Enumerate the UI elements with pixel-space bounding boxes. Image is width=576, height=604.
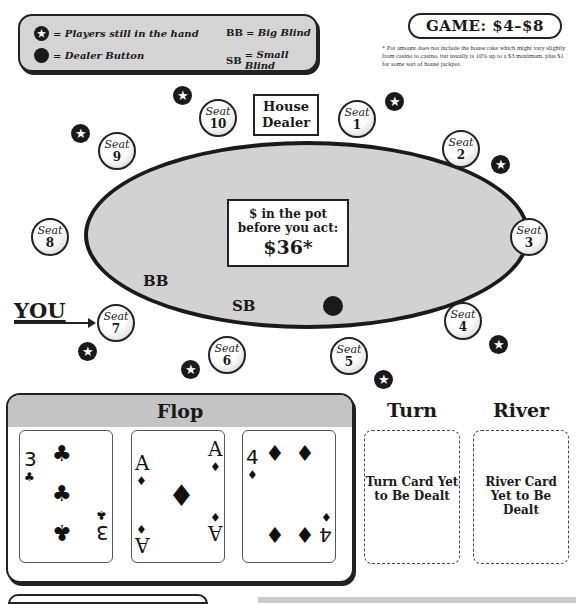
turn-title: Turn	[364, 399, 460, 421]
card-rank: A	[208, 523, 222, 543]
star-icon: ★	[491, 155, 510, 174]
card-rank: 4	[246, 447, 259, 467]
star-icon: ★	[489, 335, 508, 354]
club-icon: ♣	[52, 483, 72, 505]
star-icon: ★	[374, 370, 393, 389]
seat-4[interactable]: Seat4	[444, 302, 482, 340]
legend-sb-label: = Small Blind	[245, 49, 316, 71]
club-icon: ♣	[24, 471, 35, 483]
pot-box: $ in the pot before you act: $36*	[227, 199, 349, 267]
club-icon: ♣	[52, 521, 72, 543]
star-icon: ★	[78, 342, 97, 361]
pot-label-line1: $ in the pot	[229, 207, 347, 221]
rake-footnote: * Pot amount does not include the house …	[382, 44, 570, 68]
card-rank: A	[135, 535, 149, 555]
seat-number: 8	[33, 237, 67, 250]
star-icon: ★	[34, 26, 49, 41]
you-label: YOU	[14, 298, 66, 323]
you-arrow-icon	[14, 322, 94, 324]
diamond-icon: ♦	[265, 525, 285, 547]
legend-sb-key: SB	[226, 55, 242, 66]
star-icon: ★	[173, 86, 192, 105]
diamond-icon: ♦	[247, 469, 258, 481]
card-rank: 3	[24, 449, 37, 469]
card-rank: A	[135, 453, 149, 473]
pot-label-line2: before you act:	[229, 221, 347, 235]
diamond-icon: ♦	[295, 443, 315, 465]
small-blind-marker: SB	[232, 297, 256, 315]
seat-number: 3	[512, 237, 546, 250]
dealer-button-chip	[323, 296, 343, 316]
diamond-icon: ♦	[295, 525, 315, 547]
card-rank: 3	[96, 523, 109, 543]
seat-number: 4	[446, 321, 480, 334]
star-icon: ★	[71, 124, 90, 143]
legend-bb-label: = Big Blind	[246, 27, 311, 38]
star-icon: ★	[385, 92, 404, 111]
seat-6[interactable]: Seat6	[208, 336, 246, 374]
legend-dealer-row: = Dealer Button	[34, 48, 144, 63]
flop-title: Flop	[8, 395, 352, 427]
next-panel-edge	[8, 594, 208, 604]
diamond-icon: ♦	[321, 511, 332, 523]
seat-3[interactable]: Seat3	[510, 218, 548, 256]
diamond-icon: ♦	[136, 475, 147, 487]
legend-bb-row: BB = Big Blind	[226, 27, 311, 38]
legend-star-row: ★ = Players still in the hand	[34, 26, 199, 41]
card-rank: A	[208, 439, 222, 459]
turn-card-placeholder: Turn Card Yet to Be Dealt	[364, 430, 460, 564]
flop-card-3-clubs: 3 ♣ ♣ ♣ ♣ ♣ 3	[19, 430, 113, 563]
legend-box: ★ = Players still in the hand = Dealer B…	[18, 14, 318, 72]
game-stakes-badge: GAME: $4–$8	[408, 13, 562, 39]
dealer-button-icon	[34, 48, 49, 63]
house-dealer-box: House Dealer	[253, 94, 319, 136]
seat-1[interactable]: Seat1	[338, 100, 376, 138]
seat-number: 9	[100, 151, 134, 164]
diamond-icon: ♦	[168, 481, 195, 511]
club-icon: ♣	[52, 443, 72, 465]
diamond-icon: ♦	[210, 461, 221, 473]
seat-7[interactable]: Seat7	[97, 304, 135, 342]
seat-2[interactable]: Seat2	[442, 130, 480, 168]
seat-number: 6	[210, 355, 244, 368]
diamond-icon: ♦	[265, 443, 285, 465]
seat-10[interactable]: Seat10	[199, 99, 237, 137]
flop-card-4-diamonds: 4 ♦ ♦ ♦ ♦ ♦ ♦ 4	[242, 430, 336, 563]
next-panel-bar	[258, 597, 576, 603]
seat-number: 7	[99, 323, 133, 336]
flop-card-ace-diamonds: A ♦ A ♦ ♦ ♦ A ♦ A	[131, 430, 225, 563]
seat-9[interactable]: Seat9	[98, 132, 136, 170]
seat-8[interactable]: Seat8	[31, 218, 69, 256]
seat-number: 1	[340, 119, 374, 132]
legend-star-label: = Players still in the hand	[53, 28, 199, 39]
seat-5[interactable]: Seat5	[330, 337, 368, 375]
legend-sb-row: SB = Small Blind	[226, 49, 316, 71]
pot-amount: $36*	[229, 235, 347, 259]
seat-number: 5	[332, 356, 366, 369]
star-icon: ★	[181, 360, 200, 379]
river-title: River	[473, 399, 569, 421]
seat-number: 2	[444, 149, 478, 162]
legend-dealer-label: = Dealer Button	[53, 50, 144, 61]
river-card-placeholder: River Card Yet to Be Dealt	[473, 430, 569, 564]
big-blind-marker: BB	[143, 272, 168, 290]
legend-bb-key: BB	[226, 27, 243, 38]
card-rank: 4	[319, 525, 332, 545]
club-icon: ♣	[96, 509, 107, 521]
seat-number: 10	[201, 118, 235, 131]
